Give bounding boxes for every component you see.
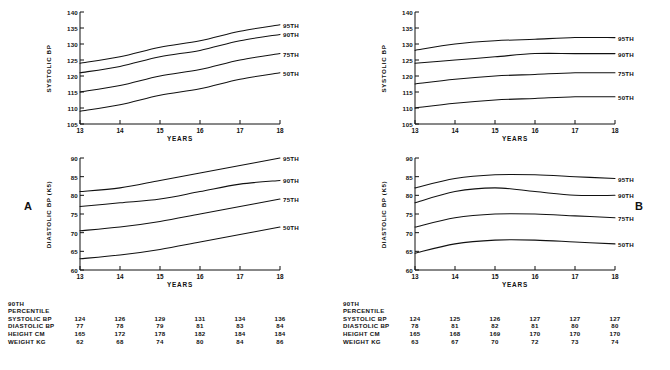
percentile-label-75th: 75TH xyxy=(283,196,299,203)
table-cell: 78 xyxy=(109,322,131,330)
table-row-label: HEIGHT CM xyxy=(8,330,45,338)
table-cell: 81 xyxy=(524,322,546,330)
percentile-curve-90th xyxy=(415,53,615,63)
y-tick-label: 80 xyxy=(393,192,413,199)
percentile-curve-75th xyxy=(415,214,615,227)
percentile-label-50th: 50TH xyxy=(618,240,634,247)
percentile-label-95th: 95TH xyxy=(618,34,634,41)
x-axis: 131415161718YEARS xyxy=(415,270,615,292)
panel-letter: A xyxy=(24,200,32,212)
table-cell: 73 xyxy=(564,338,586,346)
table-cell: 68 xyxy=(109,338,131,346)
x-tick-label: 15 xyxy=(152,127,168,134)
y-tick-labels: 105110115120125130135140 xyxy=(54,12,78,124)
table-row-label: SYSTOLIC BP xyxy=(8,315,52,323)
y-tick-label: 135 xyxy=(393,25,413,32)
y-tick-label: 85 xyxy=(58,173,78,180)
x-tick-label: 13 xyxy=(407,273,423,280)
table-row: SYSTOLIC BP124125126127127127 xyxy=(343,315,665,323)
table-cell: 169 xyxy=(484,330,506,338)
percentile-label-75th: 75TH xyxy=(283,50,299,57)
table-cell: 70 xyxy=(484,338,506,346)
y-tick-labels: 105110115120125130135140 xyxy=(389,12,413,124)
x-tick-label: 18 xyxy=(607,273,623,280)
table-cell: 62 xyxy=(69,338,91,346)
table-cell: 168 xyxy=(444,330,466,338)
x-tick-label: 14 xyxy=(112,273,128,280)
x-tick-label: 13 xyxy=(72,127,88,134)
y-tick-label: 120 xyxy=(58,73,78,80)
y-tick-label: 75 xyxy=(58,211,78,218)
percentile-label-75th: 75TH xyxy=(618,69,634,76)
table-row-label: DIASTOLIC BP xyxy=(8,322,55,330)
x-axis-title: YEARS xyxy=(415,135,615,142)
chart-b-systolic: SYSTOLIC BP10511011512012513013514095TH9… xyxy=(387,12,649,140)
table-row: HEIGHT CM165168169170170170 xyxy=(343,330,665,338)
y-tick-label: 80 xyxy=(58,192,78,199)
y-tick-label: 65 xyxy=(393,248,413,255)
x-tick-label: 17 xyxy=(567,273,583,280)
table-row-label: DIASTOLIC BP xyxy=(343,322,390,330)
chart-a-systolic: SYSTOLIC BP10511011512012513013514095TH9… xyxy=(52,12,314,140)
y-tick-label: 65 xyxy=(58,248,78,255)
table-cell: 136 xyxy=(269,315,291,323)
y-axis-title-label: SYSTOLIC BP xyxy=(46,44,53,92)
y-tick-label: 70 xyxy=(58,229,78,236)
x-tick-label: 16 xyxy=(527,127,543,134)
y-tick-labels: 60657075808590 xyxy=(54,158,78,270)
plot-area: 95TH90TH75TH50TH xyxy=(80,12,280,124)
percentile-curve-95th xyxy=(415,37,615,50)
y-tick-label: 75 xyxy=(393,211,413,218)
blood-pressure-percentile-figure: ASYSTOLIC BP10511011512012513013514095TH… xyxy=(0,0,670,370)
x-axis: 131415161718YEARS xyxy=(80,270,280,292)
table-cell: 127 xyxy=(564,315,586,323)
y-tick-label: 120 xyxy=(393,73,413,80)
percentile-label-75th: 75TH xyxy=(618,214,634,221)
y-axis-title-label: DIASTOLIC BP (K5) xyxy=(381,180,388,247)
y-tick-label: 140 xyxy=(58,9,78,16)
table-cell: 125 xyxy=(444,315,466,323)
percentile-curve-75th xyxy=(415,73,615,84)
percentile-label-90th: 90TH xyxy=(283,177,299,184)
y-tick-label: 135 xyxy=(58,25,78,32)
table-cell: 170 xyxy=(564,330,586,338)
x-tick-label: 16 xyxy=(192,273,208,280)
x-tick-label: 13 xyxy=(407,127,423,134)
plot-area: 95TH90TH75TH50TH xyxy=(415,12,615,124)
y-tick-label: 70 xyxy=(393,229,413,236)
table-cell: 126 xyxy=(109,315,131,323)
table-row: DIASTOLIC BP777879818384 xyxy=(8,322,330,330)
table-cell: 184 xyxy=(229,330,251,338)
percentile-label-90th: 90TH xyxy=(618,50,634,57)
table-cell: 84 xyxy=(229,338,251,346)
y-tick-label: 115 xyxy=(58,89,78,96)
y-tick-label: 90 xyxy=(58,155,78,162)
percentile-curve-90th xyxy=(415,188,615,203)
table-title-line: PERCENTILE xyxy=(343,307,665,314)
table-cell: 131 xyxy=(189,315,211,323)
table-cell: 184 xyxy=(269,330,291,338)
table-cell: 182 xyxy=(189,330,211,338)
percentile-label-95th: 95TH xyxy=(283,155,299,162)
percentile-curve-50th xyxy=(80,73,280,111)
table-cell: 178 xyxy=(149,330,171,338)
table-row: SYSTOLIC BP124126129131134136 xyxy=(8,315,330,323)
percentile-curve-95th xyxy=(80,158,280,192)
x-tick-label: 13 xyxy=(72,273,88,280)
x-tick-label: 15 xyxy=(152,273,168,280)
table-cell: 82 xyxy=(484,322,506,330)
x-tick-label: 18 xyxy=(272,127,288,134)
panel-a: ASYSTOLIC BP10511011512012513013514095TH… xyxy=(0,0,335,370)
table-title-line: 90TH xyxy=(343,300,665,307)
x-axis-title: YEARS xyxy=(415,281,615,288)
table-cell: 74 xyxy=(149,338,171,346)
table-cell: 77 xyxy=(69,322,91,330)
table-cell: 67 xyxy=(444,338,466,346)
table-cell: 74 xyxy=(604,338,626,346)
table-cell: 63 xyxy=(404,338,426,346)
x-tick-label: 18 xyxy=(272,273,288,280)
percentile-curve-75th xyxy=(80,54,280,92)
percentile-curve-50th xyxy=(415,240,615,253)
x-tick-label: 15 xyxy=(487,127,503,134)
table-row-label: WEIGHT KG xyxy=(343,338,381,346)
